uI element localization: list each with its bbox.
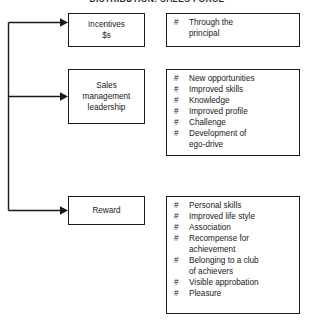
list-item: # Recompense for achievement [173, 234, 294, 255]
arrowhead-incentives [60, 18, 68, 27]
list-item-line: Improved profile [189, 107, 248, 116]
hash-bullet-icon: # [174, 223, 179, 234]
list-item: # Pleasure [173, 289, 294, 300]
list-item: # Personal skills [173, 201, 294, 212]
hash-bullet-icon: # [174, 256, 179, 267]
diagram-canvas: DISTRIBUTION: SALES FORCE Incentives $s … [0, 0, 314, 331]
hash-bullet-icon: # [174, 129, 179, 140]
hash-bullet-icon: # [174, 85, 179, 96]
list-item: # Challenge [173, 118, 294, 129]
list-item-line: Pleasure [189, 289, 221, 298]
list-item: # Development of ego-drive [173, 129, 294, 150]
list-item: # Knowledge [173, 96, 294, 107]
outcome-list-sales-management: # New opportunities # Improved skills # … [173, 74, 294, 151]
list-item-line: Development of [189, 129, 246, 138]
hash-bullet-icon: # [174, 107, 179, 118]
hash-bullet-icon: # [174, 201, 179, 212]
driver-box-sales-management-label: Sales management leadership [83, 80, 131, 113]
list-item-line: Personal skills [189, 201, 241, 210]
list-item-line: Challenge [189, 118, 226, 127]
list-item-line: New opportunities [189, 74, 255, 83]
arrowhead-sales-management [60, 92, 68, 101]
hash-bullet-icon: # [174, 278, 179, 289]
outcome-box-reward: # Personal skills # Improved life style … [166, 196, 300, 314]
list-item-line: Visible approbation [189, 278, 259, 287]
hash-bullet-icon: # [174, 234, 179, 245]
driver-box-sales-management: Sales management leadership [68, 69, 145, 124]
driver-box-incentives-label: Incentives $s [88, 19, 125, 41]
list-item: # Improved life style [173, 212, 294, 223]
outcome-list-incentives: # Through the principal [173, 18, 294, 39]
list-item: # Visible approbation [173, 278, 294, 289]
hash-bullet-icon: # [174, 212, 179, 223]
list-item: # Improved profile [173, 107, 294, 118]
list-item: # Through the principal [173, 18, 294, 39]
list-item-line: Knowledge [189, 96, 230, 105]
outcome-box-incentives: # Through the principal [166, 13, 300, 47]
hash-bullet-icon: # [174, 96, 179, 107]
driver-box-reward: Reward [68, 196, 145, 225]
list-item: # Association [173, 223, 294, 234]
list-item-line: Belonging to a club [189, 256, 259, 265]
hash-bullet-icon: # [174, 118, 179, 129]
list-item: # New opportunities [173, 74, 294, 85]
list-item-line: Through the [189, 18, 233, 27]
hash-bullet-icon: # [174, 289, 179, 300]
list-item: # Belonging to a club of achievers [173, 256, 294, 277]
list-item-line: of achievers [189, 267, 233, 276]
driver-box-incentives: Incentives $s [68, 13, 145, 47]
driver-box-reward-label: Reward [92, 205, 120, 216]
list-item: # Improved skills [173, 85, 294, 96]
hash-bullet-icon: # [174, 18, 179, 29]
page-title: DISTRIBUTION: SALES FORCE [0, 0, 314, 4]
list-item-line: Recompense for [189, 234, 249, 243]
hash-bullet-icon: # [174, 74, 179, 85]
list-item-line: ego-drive [189, 140, 223, 149]
arrowhead-reward [60, 206, 68, 215]
list-item-line: Improved skills [189, 85, 243, 94]
outcome-list-reward: # Personal skills # Improved life style … [173, 201, 294, 299]
list-item-line: principal [189, 29, 220, 38]
list-item-line: achievement [189, 245, 235, 254]
list-item-line: Association [189, 223, 231, 232]
list-item-line: Improved life style [189, 212, 255, 221]
outcome-box-sales-management: # New opportunities # Improved skills # … [166, 69, 300, 156]
